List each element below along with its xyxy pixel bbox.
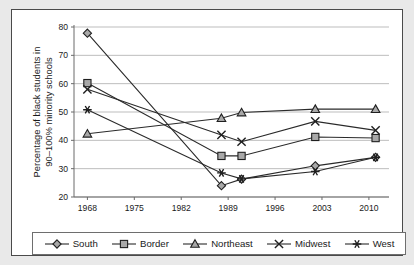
square-marker bbox=[238, 152, 245, 159]
legend-label-border: Border bbox=[140, 238, 169, 249]
marker-asterisk bbox=[352, 240, 361, 247]
legend-entry-midwest[interactable]: Midwest bbox=[266, 237, 330, 251]
y-axis-title: Percentage of black students in90–100% m… bbox=[31, 47, 54, 178]
x-marker bbox=[217, 131, 225, 139]
data-point-border-1988 bbox=[218, 152, 225, 159]
square-marker bbox=[120, 240, 127, 247]
x-tick-label-1968: 1968 bbox=[78, 203, 97, 213]
asterisk-marker bbox=[217, 169, 226, 176]
marker-square bbox=[120, 240, 127, 247]
gridlines-group bbox=[74, 27, 389, 197]
legend-marker-triangle-icon bbox=[182, 237, 208, 251]
x-tick-label-1989: 1989 bbox=[219, 203, 238, 213]
legend-label-northeast: Northeast bbox=[211, 238, 253, 249]
plot-area: 20304050607080 1968197519821989199620032… bbox=[12, 10, 401, 254]
y-tick-label-60: 60 bbox=[58, 79, 68, 89]
square-marker bbox=[84, 79, 91, 86]
data-point-border-1968 bbox=[84, 79, 91, 86]
data-point-midwest-1991 bbox=[237, 138, 245, 146]
y-axis-title-line-2: 90–100% minority schools bbox=[43, 57, 54, 167]
x-tick-label-1975: 1975 bbox=[125, 203, 144, 213]
legend-label-west: West bbox=[373, 238, 395, 249]
y-tick-label-40: 40 bbox=[58, 135, 68, 145]
diamond-marker bbox=[53, 239, 61, 247]
y-tick-label-80: 80 bbox=[58, 22, 68, 32]
data-point-border-1991 bbox=[238, 152, 245, 159]
data-point-west-1988 bbox=[217, 169, 226, 176]
y-axis-tick-labels: 20304050607080 bbox=[58, 22, 68, 202]
data-point-midwest-1988 bbox=[217, 131, 225, 139]
y-tick-label-70: 70 bbox=[58, 50, 68, 60]
chart-frame: 20304050607080 1968197519821989199620032… bbox=[11, 9, 403, 256]
x-tick-label-2003: 2003 bbox=[312, 203, 331, 213]
square-marker bbox=[372, 134, 379, 141]
legend-row: SouthBorderNortheastMidwestWest bbox=[33, 233, 405, 254]
series-lines-group bbox=[87, 33, 375, 185]
chart-legend: SouthBorderNortheastMidwestWest bbox=[32, 232, 406, 255]
axes-group bbox=[71, 25, 389, 200]
y-tick-label-20: 20 bbox=[58, 192, 68, 202]
legend-label-south: South bbox=[73, 238, 98, 249]
series-line-border bbox=[87, 83, 375, 156]
legend-entry-northeast[interactable]: Northeast bbox=[182, 237, 253, 251]
square-marker bbox=[218, 152, 225, 159]
x-tick-label-2010: 2010 bbox=[359, 203, 378, 213]
legend-entry-south[interactable]: South bbox=[44, 237, 98, 251]
legend-label-midwest: Midwest bbox=[295, 238, 330, 249]
legend-entry-west[interactable]: West bbox=[344, 237, 395, 251]
data-point-border-2011 bbox=[372, 134, 379, 141]
x-axis-tick-labels: 1968197519821989199620032010 bbox=[78, 203, 379, 213]
asterisk-marker bbox=[352, 240, 361, 247]
chart-figure: 20304050607080 1968197519821989199620032… bbox=[0, 0, 414, 265]
x-tick-label-1996: 1996 bbox=[266, 203, 285, 213]
y-tick-label-50: 50 bbox=[58, 107, 68, 117]
legend-entry-border[interactable]: Border bbox=[111, 237, 169, 251]
square-marker bbox=[312, 133, 319, 140]
y-tick-label-30: 30 bbox=[58, 164, 68, 174]
legend-marker-asterisk-icon bbox=[344, 237, 370, 251]
data-point-border-2002 bbox=[312, 133, 319, 140]
y-axis-title-line-1: Percentage of black students in bbox=[31, 47, 42, 178]
x-tick-label-1982: 1982 bbox=[172, 203, 191, 213]
legend-marker-square-icon bbox=[111, 237, 137, 251]
legend-marker-x-icon bbox=[266, 237, 292, 251]
x-marker bbox=[237, 138, 245, 146]
marker-diamond bbox=[53, 239, 61, 247]
legend-marker-diamond-icon bbox=[44, 237, 70, 251]
line-chart-svg: 20304050607080 1968197519821989199620032… bbox=[12, 10, 401, 254]
